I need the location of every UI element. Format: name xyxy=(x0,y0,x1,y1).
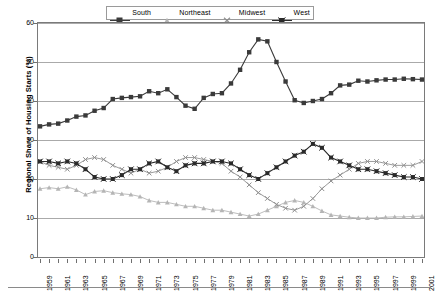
x-axis-tick-label: 2001 xyxy=(428,275,435,291)
x-axis-tick-label: 1969 xyxy=(137,275,144,291)
plot-area xyxy=(37,22,425,258)
x-axis-labels: 1959196119631965196719691971197319751977… xyxy=(37,263,425,293)
y-axis-tick-label: 30 xyxy=(4,136,34,143)
x-axis-tick-label: 1987 xyxy=(301,275,308,291)
x-axis-tick-label: 1961 xyxy=(64,275,71,291)
legend-marker-triangle-icon xyxy=(157,10,177,17)
x-axis-tick-label: 1967 xyxy=(119,275,126,291)
x-axis-tick-label: 1991 xyxy=(337,275,344,291)
legend-entry-midwest: Midwest xyxy=(217,9,265,17)
x-axis-tick-label: 1981 xyxy=(246,275,253,291)
legend-label-midwest: Midwest xyxy=(239,9,265,17)
x-axis-baseline xyxy=(8,287,431,288)
legend-entry-south: South xyxy=(110,9,151,17)
x-axis-tick-label: 1993 xyxy=(355,275,362,291)
x-axis-tick-label: 1999 xyxy=(410,275,417,291)
y-axis-tick-label: 50 xyxy=(4,58,34,65)
y-axis-tick-label: 60 xyxy=(4,19,34,26)
x-axis-tick-label: 1985 xyxy=(282,275,289,291)
legend-label-west: West xyxy=(294,9,310,17)
y-axis-tick-label: 40 xyxy=(4,97,34,104)
legend-entry-northeast: Northeast xyxy=(157,9,210,17)
x-axis-tick-label: 1963 xyxy=(82,275,89,291)
x-axis-tick-label: 1959 xyxy=(46,275,53,291)
x-axis-tick-label: 1973 xyxy=(173,275,180,291)
x-axis-tick-label: 1995 xyxy=(373,275,380,291)
y-axis-tick-label: 10 xyxy=(4,214,34,221)
legend-label-south: South xyxy=(132,9,151,17)
legend-marker-square-icon xyxy=(110,10,130,17)
x-axis-tick-label: 1979 xyxy=(228,275,235,291)
series-layer xyxy=(38,23,424,257)
legend-entry-west: West xyxy=(272,9,310,17)
x-axis-tick-label: 1975 xyxy=(192,275,199,291)
x-axis-tick-label: 1965 xyxy=(101,275,108,291)
x-axis-tick-label: 1989 xyxy=(319,275,326,291)
chart-legend: South Northeast Midwest West xyxy=(106,6,314,20)
legend-marker-star-icon xyxy=(272,10,292,17)
series-south xyxy=(38,37,424,128)
x-axis-tick-label: 1971 xyxy=(155,275,162,291)
x-axis-tick-label: 1997 xyxy=(392,275,399,291)
y-axis-labels: 0102030405060 xyxy=(0,22,34,258)
x-axis-tick-label: 1983 xyxy=(264,275,271,291)
legend-label-northeast: Northeast xyxy=(179,9,210,17)
x-axis-tick-label: 1977 xyxy=(210,275,217,291)
legend-marker-x-icon xyxy=(217,10,237,17)
series-northeast xyxy=(38,184,424,220)
y-axis-tick-label: 0 xyxy=(4,253,34,260)
regional-housing-starts-chart: South Northeast Midwest West Regional Sh… xyxy=(0,0,439,293)
y-axis-tick-label: 20 xyxy=(4,175,34,182)
